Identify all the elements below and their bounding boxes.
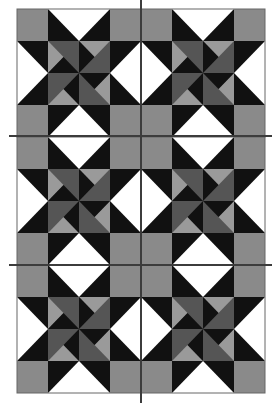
corner-square xyxy=(110,105,141,137)
quilt-block xyxy=(141,137,265,265)
corner-square xyxy=(17,137,48,169)
corner-square xyxy=(110,361,141,393)
corner-square xyxy=(234,9,265,41)
corner-square xyxy=(234,137,265,169)
corner-square xyxy=(17,233,48,265)
corner-square xyxy=(141,361,172,393)
corner-square xyxy=(234,233,265,265)
corner-square xyxy=(141,233,172,265)
quilt-canvas xyxy=(0,0,279,407)
corner-square xyxy=(110,137,141,169)
quilt-pattern xyxy=(0,0,279,407)
corner-square xyxy=(17,265,48,297)
corner-square xyxy=(141,137,172,169)
corner-square xyxy=(141,265,172,297)
corner-square xyxy=(17,105,48,137)
corner-square xyxy=(110,9,141,41)
corner-square xyxy=(234,361,265,393)
quilt-block xyxy=(17,137,141,265)
quilt-block xyxy=(141,9,265,137)
corner-square xyxy=(141,105,172,137)
corner-square xyxy=(17,9,48,41)
corner-square xyxy=(141,9,172,41)
corner-square xyxy=(234,105,265,137)
quilt-block xyxy=(141,265,265,393)
corner-square xyxy=(234,265,265,297)
corner-square xyxy=(17,361,48,393)
corner-square xyxy=(110,265,141,297)
corner-square xyxy=(110,233,141,265)
quilt-block xyxy=(17,265,141,393)
quilt-block xyxy=(17,9,141,137)
